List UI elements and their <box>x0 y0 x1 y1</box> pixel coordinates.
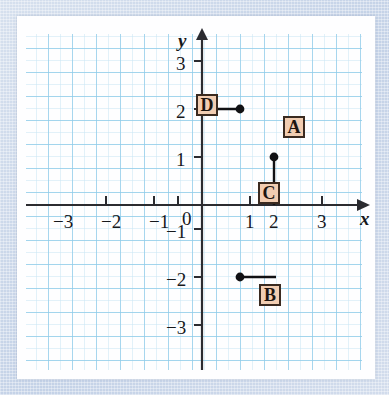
point-label-d[interactable]: D <box>196 94 218 116</box>
x-axis-label: x <box>360 209 370 228</box>
y-tick-label-3: 3 <box>176 54 186 73</box>
y-tick-label-2: 2 <box>176 102 186 121</box>
y-axis-label: y <box>178 31 186 50</box>
point-label-c[interactable]: C <box>258 182 280 204</box>
point-label-b[interactable]: B <box>259 284 281 306</box>
x-tick-label-3: 3 <box>317 212 327 231</box>
grid <box>26 34 362 370</box>
x-tick-label-2: 2 <box>269 212 279 231</box>
x-tick-label-1: 1 <box>245 212 255 231</box>
coordinate-plane-svg <box>0 0 389 395</box>
y-tick-label-neg1: −1 <box>166 222 186 241</box>
y-tick-label-neg2: −2 <box>166 270 186 289</box>
point-a <box>270 153 279 162</box>
y-tick-label-neg3: −3 <box>166 318 186 337</box>
x-tick-label-neg2: −2 <box>101 212 121 231</box>
y-tick-label-1: 1 <box>176 150 186 169</box>
x-tick-label-neg3: −3 <box>53 212 73 231</box>
point-b <box>236 273 245 282</box>
point-label-a[interactable]: A <box>283 116 305 138</box>
point-d <box>236 105 245 114</box>
figure-canvas: y x 0 −3 −2 −1 1 2 3 3 2 1 −1 −2 −3 A B … <box>0 0 389 395</box>
